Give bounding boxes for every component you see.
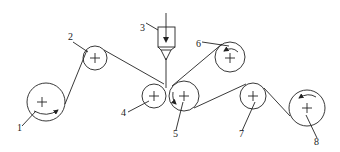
label-7: 7 xyxy=(239,128,244,139)
web-path-diagram: 1 2 3 4 5 6 7 8 xyxy=(0,0,340,152)
feed-hopper xyxy=(158,13,175,60)
label-3: 3 xyxy=(140,22,145,33)
roller-2 xyxy=(83,46,107,70)
roller-5 xyxy=(169,81,199,111)
label-1: 1 xyxy=(17,122,22,133)
label-6: 6 xyxy=(196,38,201,49)
label-5: 5 xyxy=(173,128,178,139)
callout-labels: 1 2 3 4 5 6 7 8 xyxy=(17,22,319,147)
label-8: 8 xyxy=(314,136,319,147)
roller-8 xyxy=(289,90,325,126)
leader-lines xyxy=(22,23,317,138)
diagram-svg: 1 2 3 4 5 6 7 8 xyxy=(0,0,340,152)
label-2: 2 xyxy=(68,31,73,42)
web-path xyxy=(65,44,290,116)
roller-4 xyxy=(142,84,166,108)
label-4: 4 xyxy=(121,107,126,118)
roller-7 xyxy=(240,83,266,109)
roller-1 xyxy=(27,83,65,121)
roller-6 xyxy=(215,42,245,72)
